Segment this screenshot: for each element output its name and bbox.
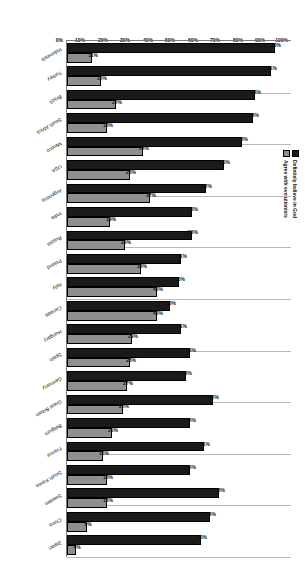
bar-group: 55%18% <box>67 463 291 486</box>
bar-value-label: 28% <box>126 169 136 175</box>
x-axis-labels: IndonesiaTurkeyBrazilSouth AfricaMexicoU… <box>0 40 66 557</box>
x-axis-category-label: Hungary <box>43 329 63 344</box>
legend-item-god: Definitely believe in God <box>292 150 299 218</box>
x-axis-label-cell: South Korea <box>0 463 66 487</box>
x-axis-label-cell: Indonesia <box>0 40 66 64</box>
bar-agree-evolution: 28% <box>67 358 130 368</box>
bar-value-label: 9% <box>85 521 92 527</box>
x-axis-category-label: Italy <box>52 282 63 292</box>
x-axis-label-cell: China <box>0 510 66 534</box>
gridline <box>67 557 291 558</box>
bar-value-label: 33% <box>137 263 147 269</box>
bar-group: 61%16% <box>67 440 291 463</box>
bar-group: 60%4% <box>67 534 291 557</box>
bar-group: 46%40% <box>67 299 291 322</box>
bar-agree-evolution: 9% <box>67 522 87 532</box>
x-axis-category-label: Spain <box>48 352 63 364</box>
bar-value-label: 26% <box>121 239 131 245</box>
bar-value-label: 20% <box>108 427 118 433</box>
bar-agree-evolution: 4% <box>67 545 76 555</box>
bar-agree-evolution: 33% <box>67 264 141 274</box>
bar-believe-in-god: 78% <box>67 137 242 147</box>
bar-value-label: 15% <box>97 75 107 81</box>
bar-believe-in-god: 51% <box>67 254 181 264</box>
bar-group: 65%25% <box>67 393 291 416</box>
bar-believe-in-god: 84% <box>67 90 255 100</box>
bar-group: 56%26% <box>67 229 291 252</box>
x-axis-category-label: Canada <box>44 305 63 319</box>
bar-agree-evolution: 18% <box>67 475 107 485</box>
x-axis-category-label: Turkey <box>46 70 63 83</box>
bar-value-label: 55% <box>186 417 196 423</box>
bar-value-label: 50% <box>175 276 185 282</box>
bar-value-label: 29% <box>128 333 138 339</box>
bar-group: 51%33% <box>67 252 291 275</box>
bar-agree-evolution: 40% <box>67 311 157 321</box>
bar-group: 78%34% <box>67 135 291 158</box>
bar-value-label: 27% <box>123 380 133 386</box>
x-axis-label-cell: Turkey <box>0 64 66 88</box>
x-axis-category-label: Argentina <box>41 188 63 204</box>
bar-group: 68%18% <box>67 487 291 510</box>
bar-agree-evolution: 40% <box>67 287 157 297</box>
bar-groups: 93%11%91%15%84%22%83%18%78%34%70%28%62%3… <box>67 41 291 557</box>
x-axis-label-cell: Mexico <box>0 134 66 158</box>
bar-agree-evolution: 18% <box>67 123 107 133</box>
legend-swatch-icon <box>292 150 299 157</box>
bar-group: 83%18% <box>67 111 291 134</box>
bar-group: 84%22% <box>67 88 291 111</box>
x-axis-label-cell: Hungary <box>0 322 66 346</box>
bar-value-label: 22% <box>112 99 122 105</box>
bar-group: 55%28% <box>67 346 291 369</box>
x-axis-category-label: Japan <box>48 540 63 552</box>
bar-value-label: 34% <box>139 145 149 151</box>
x-axis-category-label: Germany <box>42 376 63 392</box>
x-axis-label-cell: South Africa <box>0 111 66 135</box>
bar-agree-evolution: 20% <box>67 428 112 438</box>
x-axis-label-cell: Brazil <box>0 87 66 111</box>
x-axis-label-cell: Sweden <box>0 487 66 511</box>
bar-believe-in-god: 55% <box>67 465 190 475</box>
bar-value-label: 18% <box>103 497 113 503</box>
bar-value-label: 28% <box>126 357 136 363</box>
x-axis-category-label: France <box>46 446 63 459</box>
bar-agree-evolution: 34% <box>67 147 143 157</box>
bar-agree-evolution: 15% <box>67 76 101 86</box>
x-axis-category-label: Sweden <box>44 493 63 508</box>
bar-agree-evolution: 26% <box>67 240 125 250</box>
x-axis-label-cell: Spain <box>0 346 66 370</box>
bar-value-label: 60% <box>197 534 207 540</box>
bar-believe-in-god: 83% <box>67 113 253 123</box>
bar-value-label: 19% <box>106 216 116 222</box>
bar-value-label: 93% <box>271 42 281 48</box>
x-axis-label-cell: Argentina <box>0 181 66 205</box>
bar-group: 53%27% <box>67 369 291 392</box>
bar-value-label: 46% <box>166 300 176 306</box>
x-axis-category-label: Mexico <box>46 141 63 154</box>
bar-value-label: 18% <box>103 122 113 128</box>
bar-value-label: 40% <box>153 310 163 316</box>
bar-group: 51%29% <box>67 322 291 345</box>
bar-believe-in-god: 51% <box>67 324 181 334</box>
x-axis-label-cell: Poland <box>0 252 66 276</box>
bar-value-label: 37% <box>146 192 156 198</box>
bar-value-label: 18% <box>103 474 113 480</box>
bar-agree-evolution: 37% <box>67 193 150 203</box>
bar-agree-evolution: 29% <box>67 334 132 344</box>
bar-value-label: 16% <box>99 450 109 456</box>
x-axis-category-label: Indonesia <box>41 47 63 63</box>
bar-value-label: 83% <box>249 112 259 118</box>
bar-agree-evolution: 11% <box>67 53 92 63</box>
x-axis-category-label: USA <box>51 164 63 175</box>
bar-chart: Definitely believe in God Agree with evo… <box>0 0 305 567</box>
x-axis-label-cell: USA <box>0 158 66 182</box>
bar-group: 56%19% <box>67 205 291 228</box>
bar-believe-in-god: 56% <box>67 207 192 217</box>
bar-agree-evolution: 22% <box>67 100 116 110</box>
chart-canvas: Definitely believe in God Agree with evo… <box>0 0 305 567</box>
bar-group: 50%40% <box>67 276 291 299</box>
bar-value-label: 68% <box>215 487 225 493</box>
bar-value-label: 4% <box>73 544 80 550</box>
bar-value-label: 84% <box>251 89 261 95</box>
bar-group: 64%9% <box>67 510 291 533</box>
